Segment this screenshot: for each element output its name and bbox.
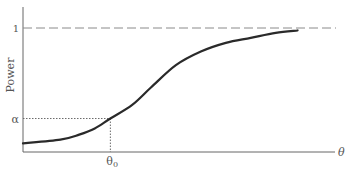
power-curve — [23, 30, 298, 143]
power-chart: Power 1 α θ0 θ — [0, 0, 352, 170]
x-axis-label: θ — [338, 146, 345, 159]
x-tick-label-theta0-subscript: 0 — [113, 160, 118, 169]
x-tick-label-theta0: θ0 — [106, 155, 118, 169]
y-tick-label-one: 1 — [13, 23, 19, 34]
y-axis-label: Power — [4, 57, 17, 93]
y-tick-label-alpha: α — [12, 113, 20, 126]
